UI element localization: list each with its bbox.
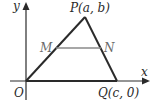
y-axis-label: y [12, 0, 20, 13]
point-N-label: N [103, 41, 115, 55]
triangle-diagram: y x O P(a, b) Q(c, 0) M N [0, 0, 155, 106]
point-M-label: M [39, 41, 53, 55]
side-OP [26, 17, 85, 81]
origin-label: O [14, 86, 24, 100]
x-axis-label: x [141, 65, 148, 79]
point-P-label: P(a, b) [69, 1, 110, 15]
point-Q-label: Q(c, 0) [98, 86, 140, 100]
